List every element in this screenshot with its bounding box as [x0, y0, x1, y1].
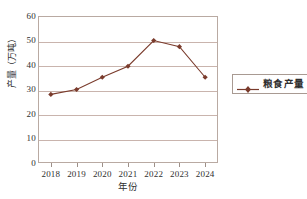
- data-point-marker: [100, 75, 105, 80]
- x-tick-label: 2024: [188, 169, 222, 179]
- x-axis-title: 年份: [38, 182, 218, 193]
- x-tick: [179, 163, 180, 167]
- y-tick-label: 20: [2, 110, 36, 119]
- x-tick: [205, 163, 206, 167]
- y-tick-label: 0: [2, 159, 36, 168]
- legend-entry-label: 粮食产量: [263, 79, 304, 89]
- x-tick: [51, 163, 52, 167]
- x-tick: [128, 163, 129, 167]
- data-series-layer: [38, 16, 218, 163]
- line-chart: 0102030405060 产量（万吨） 2018201920202021202…: [0, 0, 307, 199]
- legend[interactable]: 粮食产量: [232, 74, 307, 94]
- diamond-marker-icon: [237, 80, 259, 89]
- y-tick-label: 10: [2, 134, 36, 143]
- data-point-marker: [74, 87, 79, 92]
- y-axis: 0102030405060: [0, 0, 36, 199]
- data-point-marker: [48, 92, 53, 97]
- x-tick: [77, 163, 78, 167]
- x-tick: [154, 163, 155, 167]
- y-tick-label: 60: [2, 12, 36, 21]
- y-axis-title: 产量（万吨）: [7, 21, 17, 101]
- x-tick: [102, 163, 103, 167]
